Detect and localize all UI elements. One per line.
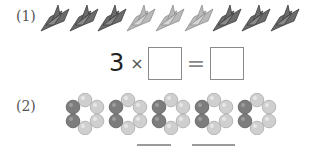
- paper-crane-icon: [241, 3, 271, 33]
- dark-bead: [109, 100, 123, 114]
- paper-crane-icon: [270, 3, 300, 33]
- light-bead: [78, 93, 92, 107]
- answer-blank-2[interactable]: [192, 144, 235, 146]
- light-bead: [176, 114, 190, 128]
- problem-1-label: (1): [16, 8, 36, 24]
- dark-bead: [152, 100, 166, 114]
- equals-symbol: =: [187, 51, 205, 76]
- light-bead: [164, 121, 178, 135]
- light-bead: [250, 121, 264, 135]
- paper-crane-icon: [40, 3, 70, 33]
- light-bead: [262, 114, 276, 128]
- paper-crane-icon: [184, 3, 214, 33]
- problem-2-label: (2): [16, 98, 36, 114]
- dark-bead: [66, 114, 80, 128]
- multiplication-equation: 3 × =: [109, 46, 244, 80]
- answer-box-2[interactable]: [210, 47, 244, 80]
- bead-ring: [236, 93, 278, 135]
- dark-bead: [195, 100, 209, 114]
- light-bead: [164, 93, 178, 107]
- light-bead: [207, 93, 221, 107]
- dark-bead: [238, 114, 252, 128]
- paper-crane-icon: [69, 3, 99, 33]
- dark-bead: [195, 114, 209, 128]
- dark-bead: [66, 100, 80, 114]
- bead-ring: [150, 93, 192, 135]
- dark-bead: [238, 100, 252, 114]
- factor-number: 3: [109, 49, 124, 77]
- bead-ring: [64, 93, 106, 135]
- paper-crane-icon: [155, 3, 185, 33]
- answer-blank-1[interactable]: [137, 144, 171, 146]
- answer-box-1[interactable]: [148, 47, 182, 80]
- times-symbol: ×: [130, 54, 143, 73]
- paper-crane-icon: [126, 3, 156, 33]
- dark-bead: [152, 114, 166, 128]
- light-bead: [207, 121, 221, 135]
- paper-crane-icon: [212, 3, 242, 33]
- bead-ring: [193, 93, 235, 135]
- light-bead: [262, 100, 276, 114]
- light-bead: [133, 100, 147, 114]
- light-bead: [121, 121, 135, 135]
- light-bead: [121, 93, 135, 107]
- light-bead: [219, 114, 233, 128]
- light-bead: [133, 114, 147, 128]
- dark-bead: [109, 114, 123, 128]
- light-bead: [176, 100, 190, 114]
- light-bead: [219, 100, 233, 114]
- light-bead: [90, 100, 104, 114]
- light-bead: [250, 93, 264, 107]
- light-bead: [78, 121, 92, 135]
- light-bead: [90, 114, 104, 128]
- paper-crane-icon: [97, 3, 127, 33]
- bead-ring: [107, 93, 149, 135]
